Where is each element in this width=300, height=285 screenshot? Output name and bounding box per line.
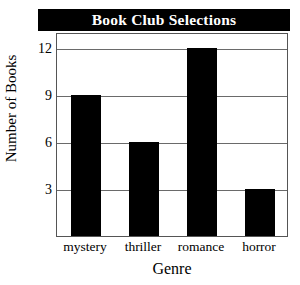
chart-title-banner: Book Club Selections — [38, 9, 290, 31]
y-axis-tick-labels: 36912 — [30, 33, 52, 237]
x-tick-label-horror: horror — [230, 240, 288, 254]
y-tick-label-9: 9 — [30, 89, 52, 103]
plot-inner — [57, 34, 287, 236]
bar-horror — [245, 189, 275, 236]
plot-area — [56, 33, 288, 237]
bar-romance — [187, 48, 217, 236]
page-title: Book Club Selections — [92, 12, 236, 28]
x-axis-title: Genre — [56, 261, 288, 277]
x-tick-label-mystery: mystery — [56, 240, 114, 254]
y-axis-title: Number of Books — [4, 34, 19, 184]
bar-thriller — [129, 142, 159, 236]
bar-mystery — [71, 95, 101, 236]
y-tick-label-3: 3 — [30, 183, 52, 197]
x-axis-tick-labels: mysterythrillerromancehorror — [56, 240, 288, 258]
x-tick-label-thriller: thriller — [114, 240, 172, 254]
y-tick-label-6: 6 — [30, 136, 52, 150]
gridline-12 — [57, 49, 287, 50]
bar-chart-figure: Book Club Selections Number of Books 369… — [0, 0, 300, 285]
y-tick-label-12: 12 — [30, 42, 52, 56]
x-tick-label-romance: romance — [172, 240, 230, 254]
